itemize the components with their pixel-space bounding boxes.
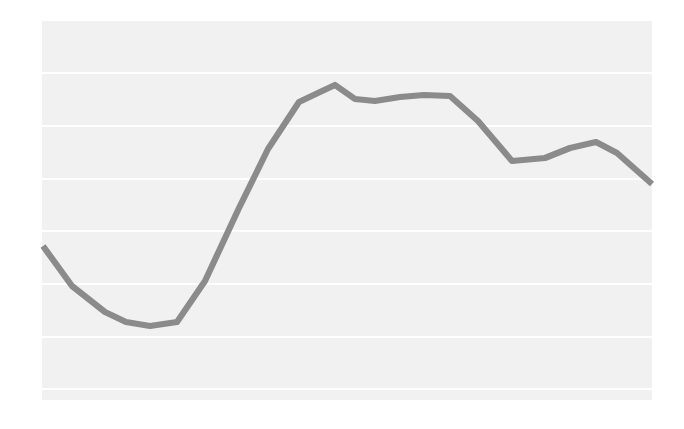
chart-container <box>0 0 684 429</box>
plot-area-background <box>42 21 652 400</box>
line-chart <box>0 0 684 429</box>
